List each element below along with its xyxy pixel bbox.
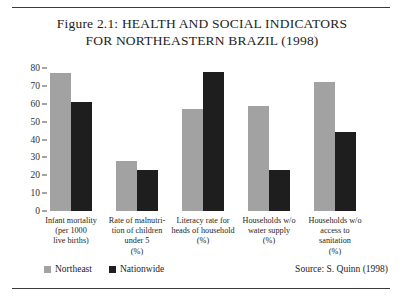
x-axis-category-label: Literacy rate forheads of household(%) bbox=[166, 216, 240, 247]
x-axis-category-label-line: (per 1000 bbox=[34, 226, 108, 236]
x-axis-category-label: Infant mortality(per 1000live births) bbox=[34, 216, 108, 247]
bar-nationwide[interactable] bbox=[269, 170, 290, 211]
x-axis-category-label-line: Rate of malnutri- bbox=[100, 216, 174, 226]
x-axis-category-label: Rate of malnutri-tion of childrenunder 5… bbox=[100, 216, 174, 257]
bar-northeast[interactable] bbox=[182, 109, 203, 211]
y-axis-tick-mark bbox=[42, 157, 47, 158]
y-axis-tick-label: 70 bbox=[6, 81, 40, 91]
x-axis-category-label-line: (%) bbox=[298, 247, 372, 257]
x-axis-category-label-line: water supply bbox=[232, 226, 306, 236]
x-axis-category-label-line: (%) bbox=[100, 247, 174, 257]
bar-group bbox=[314, 68, 356, 211]
bar-nationwide[interactable] bbox=[335, 132, 356, 211]
x-axis-category-label-line: access to bbox=[298, 226, 372, 236]
legend-swatch-nationwide-icon bbox=[109, 266, 116, 273]
y-axis-tick-label: 30 bbox=[6, 152, 40, 162]
figure-container: Figure 2.1: HEALTH AND SOCIAL INDICATORS… bbox=[0, 0, 404, 301]
bar-nationwide[interactable] bbox=[71, 102, 92, 211]
legend: Northeast Nationwide bbox=[44, 264, 164, 274]
legend-item-northeast[interactable]: Northeast bbox=[44, 264, 92, 274]
bar-northeast[interactable] bbox=[314, 82, 335, 211]
x-axis-category-label-line: Infant mortality bbox=[34, 216, 108, 226]
x-axis-category-label-line: (%) bbox=[232, 236, 306, 246]
legend-swatch-northeast-icon bbox=[44, 266, 51, 273]
y-axis-tick-mark bbox=[42, 85, 47, 86]
y-axis-tick-label: 60 bbox=[6, 99, 40, 109]
legend-item-nationwide[interactable]: Nationwide bbox=[109, 264, 164, 274]
y-axis-tick-mark bbox=[42, 68, 47, 69]
bar-group bbox=[182, 68, 224, 211]
x-axis-category-label-line: sanitation bbox=[298, 236, 372, 246]
x-axis-category-label-line: under 5 bbox=[100, 236, 174, 246]
y-axis-tick-mark bbox=[42, 121, 47, 122]
y-axis-tick-label: 20 bbox=[6, 170, 40, 180]
bar-group bbox=[50, 68, 92, 211]
x-axis-category-label-line: tion of children bbox=[100, 226, 174, 236]
x-axis-category-label-line: Households w/o bbox=[298, 216, 372, 226]
x-axis-category-label: Households w/owater supply(%) bbox=[232, 216, 306, 247]
plot-area: 01020304050607080 Infant mortality(per 1… bbox=[0, 0, 404, 301]
y-axis-tick-mark bbox=[42, 139, 47, 140]
x-axis-category-label-line: Literacy rate for bbox=[166, 216, 240, 226]
bar-northeast[interactable] bbox=[248, 106, 269, 211]
bar-group bbox=[248, 68, 290, 211]
y-axis-tick-mark bbox=[42, 193, 47, 194]
x-axis-category-label-line: heads of household bbox=[166, 226, 240, 236]
bar-group bbox=[116, 68, 158, 211]
bar-northeast[interactable] bbox=[50, 73, 71, 211]
y-axis-tick-label: 80 bbox=[6, 63, 40, 73]
y-axis-tick-mark bbox=[42, 175, 47, 176]
x-axis-category-label-line: (%) bbox=[166, 236, 240, 246]
x-axis-category-label-line: live births) bbox=[34, 236, 108, 246]
y-axis-tick-mark bbox=[42, 211, 47, 212]
legend-label-nationwide: Nationwide bbox=[120, 264, 164, 274]
bar-nationwide[interactable] bbox=[137, 170, 158, 211]
x-axis-category-label-line: Households w/o bbox=[232, 216, 306, 226]
legend-label-northeast: Northeast bbox=[55, 264, 92, 274]
y-axis-tick-label: 10 bbox=[6, 188, 40, 198]
y-axis-tick-mark bbox=[42, 103, 47, 104]
x-axis-category-label: Households w/oaccess tosanitation(%) bbox=[298, 216, 372, 257]
source-note: Source: S. Quinn (1998) bbox=[295, 264, 388, 274]
bar-northeast[interactable] bbox=[116, 161, 137, 211]
y-axis-tick-label: 50 bbox=[6, 117, 40, 127]
y-axis-tick-label: 40 bbox=[6, 135, 40, 145]
y-axis-tick-label: 0 bbox=[6, 206, 40, 216]
bar-nationwide[interactable] bbox=[203, 72, 224, 211]
